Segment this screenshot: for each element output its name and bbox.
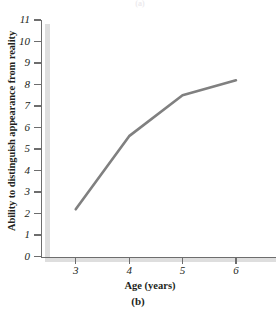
x-axis-title: Age (years) [41,280,259,291]
plot-area [0,0,276,314]
panel-label: (b) [88,295,188,307]
data-line-series-1 [76,80,236,209]
figure-panel-b: (a) Ability to distinguish appearance fr… [0,0,276,314]
